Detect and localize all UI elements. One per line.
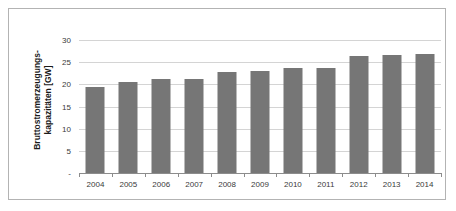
x-tick-mark <box>375 173 376 177</box>
x-tick-mark <box>441 173 442 177</box>
bar-slot <box>79 40 112 173</box>
y-tick-label-0: - <box>68 169 71 178</box>
bar-slot <box>112 40 145 173</box>
x-tick-mark <box>309 173 310 177</box>
bars-layer <box>79 40 441 173</box>
x-tick-mark <box>244 173 245 177</box>
bar-2010 <box>283 68 302 173</box>
bar-slot <box>276 40 309 173</box>
bar-2006 <box>152 79 171 173</box>
x-tick-label-2010: 2010 <box>284 180 302 189</box>
x-axis-line <box>79 173 441 174</box>
y-tick-label-5: 5 <box>67 146 71 155</box>
bar-2009 <box>250 71 269 173</box>
bar-slot <box>211 40 244 173</box>
bar-slot <box>309 40 342 173</box>
plot-area <box>79 40 441 173</box>
bar-slot <box>145 40 178 173</box>
y-tick-label-25: 25 <box>62 58 71 67</box>
bar-2008 <box>218 72 237 173</box>
x-tick-label-2012: 2012 <box>350 180 368 189</box>
x-tick-mark <box>79 173 80 177</box>
x-tick-label-2004: 2004 <box>87 180 105 189</box>
bar-slot <box>244 40 277 173</box>
bar-2007 <box>185 79 204 173</box>
chart-figure: Bruttostromerzeugungs- kapazitäten [GW] … <box>0 0 456 211</box>
x-tick-label-2011: 2011 <box>317 180 334 189</box>
bar-slot <box>342 40 375 173</box>
bar-2011 <box>316 68 335 174</box>
y-tick-label-20: 20 <box>62 80 71 89</box>
bar-2004 <box>86 87 105 173</box>
y-axis-title-line-1: Bruttostromerzeugungs- <box>32 50 43 150</box>
x-tick-label-2007: 2007 <box>185 180 203 189</box>
y-axis-tick-labels: -51015202530 <box>49 40 77 173</box>
x-tick-label-2006: 2006 <box>152 180 170 189</box>
x-tick-label-2013: 2013 <box>383 180 401 189</box>
x-tick-label-2009: 2009 <box>251 180 269 189</box>
x-axis-tick-labels: 2004200520062007200820092010201120122013… <box>79 180 441 194</box>
x-tick-mark <box>211 173 212 177</box>
bar-slot <box>408 40 441 173</box>
bar-2014 <box>415 54 434 173</box>
x-tick-mark <box>276 173 277 177</box>
x-tick-mark <box>342 173 343 177</box>
x-tick-label-2008: 2008 <box>218 180 236 189</box>
x-tick-mark <box>408 173 409 177</box>
x-tick-mark <box>112 173 113 177</box>
chart-frame: Bruttostromerzeugungs- kapazitäten [GW] … <box>8 8 446 200</box>
bar-2012 <box>349 56 368 173</box>
bar-slot <box>375 40 408 173</box>
bar-slot <box>178 40 211 173</box>
x-tick-label-2014: 2014 <box>416 180 434 189</box>
y-tick-label-10: 10 <box>62 124 71 133</box>
y-tick-label-30: 30 <box>62 36 71 45</box>
bar-2013 <box>382 55 401 173</box>
x-tick-mark <box>178 173 179 177</box>
x-tick-label-2005: 2005 <box>119 180 137 189</box>
y-tick-label-15: 15 <box>62 102 71 111</box>
bar-2005 <box>119 82 138 173</box>
x-tick-mark <box>145 173 146 177</box>
